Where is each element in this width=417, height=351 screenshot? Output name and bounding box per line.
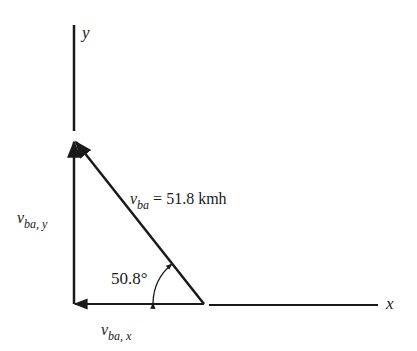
resultant-label: vba = 51.8 kmh <box>130 191 227 211</box>
angle-arc <box>153 264 172 303</box>
x-axis-label: x <box>386 295 394 312</box>
y-axis-label: y <box>82 24 90 41</box>
angle-label: 50.8° <box>111 270 148 287</box>
vector-diagram <box>0 0 417 351</box>
y-component-label: vba, y <box>17 210 47 230</box>
x-component-label: vba, x <box>101 322 131 342</box>
